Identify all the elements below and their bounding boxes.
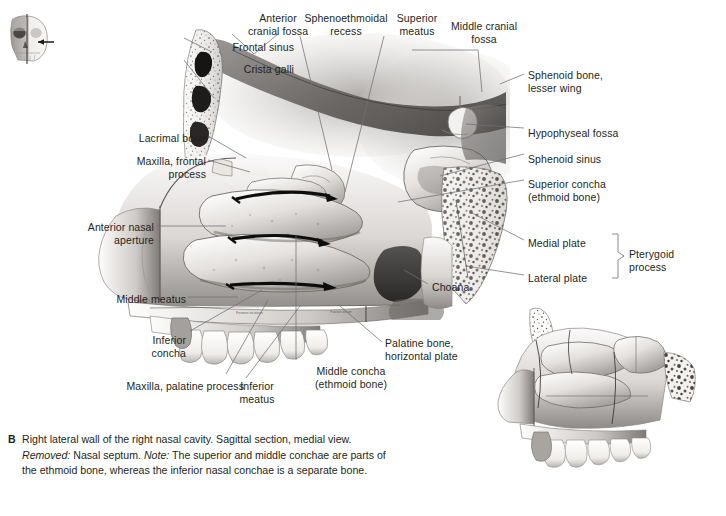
- label-sphenoid-sinus: Sphenoid sinus: [528, 153, 668, 166]
- svg-text:Foramen incisivum: Foramen incisivum: [236, 311, 263, 315]
- label-frontal-sinus: Frontal sinus: [174, 41, 294, 54]
- caption-line4: a separate bone.: [288, 464, 368, 476]
- caption-line1: Right lateral wall of the right nasal ca…: [22, 433, 325, 445]
- caption-note-label: Note:: [144, 449, 169, 461]
- label-sphenoid-bone-lesser-wing: Sphenoid bone, lesser wing: [528, 69, 658, 94]
- label-anterior-nasal-aperture: Anterior nasal aperture: [34, 221, 154, 246]
- caption-view-word: view.: [328, 433, 352, 445]
- label-hypophyseal-fossa: Hypophyseal fossa: [528, 127, 668, 140]
- label-palatine-bone-horizontal-plate: Palatine bone, horizontal plate: [385, 337, 505, 362]
- caption-removed-label: Removed:: [22, 449, 70, 461]
- label-middle-concha: Middle concha (ethmoid bone): [296, 365, 406, 390]
- label-maxilla-frontal-process: Maxilla, frontal process: [86, 155, 206, 180]
- figure-caption: B Right lateral wall of the right nasal …: [8, 432, 400, 479]
- caption-removed-text: Nasal septum.: [73, 449, 141, 461]
- label-pterygoid-process: Pterygoid process: [629, 248, 719, 273]
- label-middle-cranial-fossa: Middle cranial fossa: [436, 20, 532, 45]
- label-middle-meatus: Middle meatus: [66, 293, 186, 306]
- label-inferior-meatus: Inferior meatus: [222, 380, 292, 405]
- label-crista-galli: Crista galli: [174, 63, 294, 76]
- caption-note-text: The superior and middle conchae: [172, 449, 329, 461]
- label-inferior-concha: Inferior concha: [100, 334, 186, 359]
- label-choana: Choana: [432, 281, 502, 294]
- label-superior-concha: Superior concha (ethmoid bone): [528, 178, 668, 203]
- label-lacrimal-bone: Lacrimal bone: [86, 132, 206, 145]
- label-lateral-plate: Lateral plate: [528, 272, 618, 285]
- label-maxilla-palatine-process: Maxilla, palatine process: [84, 380, 244, 393]
- label-medial-plate: Medial plate: [528, 237, 618, 250]
- caption-letter: B: [8, 433, 16, 445]
